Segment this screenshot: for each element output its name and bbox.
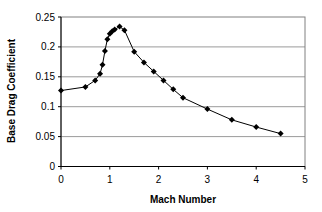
x-tick-label: 3 bbox=[205, 174, 211, 185]
x-tick-label: 0 bbox=[58, 174, 64, 185]
diamond-marker-icon bbox=[253, 124, 259, 130]
x-axis-title: Mach Number bbox=[150, 194, 216, 205]
diamond-marker-icon bbox=[82, 84, 88, 90]
diamond-marker-icon bbox=[99, 62, 105, 68]
x-tick-label: 1 bbox=[107, 174, 113, 185]
diamond-marker-icon bbox=[104, 36, 110, 42]
y-axis-ticks: 00.050.10.150.20.25 bbox=[36, 12, 61, 173]
diamond-marker-icon bbox=[102, 48, 108, 54]
x-tick-label: 2 bbox=[156, 174, 162, 185]
x-tick-label: 4 bbox=[253, 174, 259, 185]
y-tick-label: 0.15 bbox=[36, 71, 56, 82]
diamond-marker-icon bbox=[229, 117, 235, 123]
axes bbox=[61, 17, 305, 167]
y-tick-label: 0 bbox=[49, 161, 55, 172]
y-tick-label: 0.05 bbox=[36, 131, 56, 142]
plot-area bbox=[61, 17, 305, 167]
chart: 00.050.10.150.20.25 012345 Mach Number B… bbox=[0, 0, 322, 212]
data-markers bbox=[58, 24, 284, 137]
x-axis-ticks: 012345 bbox=[58, 167, 308, 185]
y-tick-label: 0.2 bbox=[41, 41, 55, 52]
diamond-marker-icon bbox=[278, 131, 284, 137]
y-tick-label: 0.1 bbox=[41, 101, 55, 112]
y-axis-title: Base Drag Coefficient bbox=[6, 38, 17, 143]
x-tick-label: 5 bbox=[302, 174, 308, 185]
gridlines bbox=[61, 47, 305, 137]
diamond-marker-icon bbox=[58, 88, 64, 94]
y-tick-label: 0.25 bbox=[36, 12, 56, 23]
